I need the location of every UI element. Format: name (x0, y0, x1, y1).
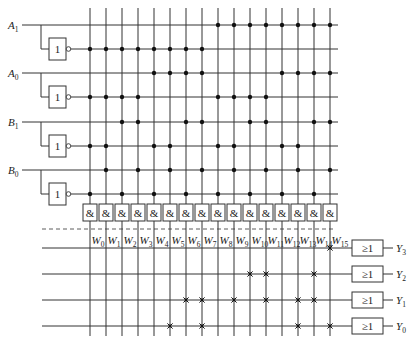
connection-dot (216, 95, 220, 99)
connection-dot (136, 120, 140, 124)
inversion-bubble-icon (66, 192, 71, 197)
output-label-y1: Y1 (396, 294, 406, 309)
connection-dot (168, 71, 172, 75)
svg-text:&: & (326, 207, 335, 219)
connection-dot (216, 144, 220, 148)
connection-dot (248, 120, 252, 124)
branch-wire (41, 122, 49, 146)
connection-dot (200, 120, 204, 124)
connection-dot (104, 168, 108, 172)
input-b1: B11 (8, 116, 338, 157)
svg-text:&: & (102, 207, 111, 219)
and-gate-w10: & (243, 204, 257, 221)
connection-dot (104, 47, 108, 51)
and-gate-w1: & (99, 204, 113, 221)
connection-dot (104, 95, 108, 99)
connection-dot (152, 71, 156, 75)
connection-dot (200, 47, 204, 51)
connection-dot (264, 23, 268, 27)
connection-dot (216, 192, 220, 196)
input-label-b0: B0 (8, 164, 19, 179)
svg-text:&: & (262, 207, 271, 219)
minterm-label-w3: W3 (140, 234, 153, 249)
connection-dot (88, 144, 92, 148)
connection-dot (168, 144, 172, 148)
input-label-a1: A1 (7, 19, 19, 34)
svg-text:&: & (150, 207, 159, 219)
connection-dot (232, 95, 236, 99)
connection-dot (280, 71, 284, 75)
or-array-outputs: ≥1Y3≥1Y2≥1Y1≥1Y0 (42, 240, 406, 335)
connection-dot (280, 23, 284, 27)
output-y1: ≥1Y1 (42, 292, 406, 309)
connection-dot (312, 192, 316, 196)
connection-dot (264, 95, 268, 99)
minterm-columns (90, 8, 330, 336)
connection-dot (88, 47, 92, 51)
minterm-label-w2: W2 (124, 234, 137, 249)
connection-dot (136, 168, 140, 172)
connection-dot (120, 192, 124, 196)
and-gate-w5: & (163, 204, 177, 221)
connection-dot (248, 192, 252, 196)
output-y0: ≥1Y0 (42, 318, 406, 335)
connection-dot (232, 168, 236, 172)
minterm-label-w9: W9 (236, 234, 249, 249)
connection-dot (280, 144, 284, 148)
and-gate-w0: & (83, 204, 97, 221)
connection-dot (120, 95, 124, 99)
and-gate-w2: & (115, 204, 129, 221)
and-gate-w12: & (275, 204, 289, 221)
branch-wire (41, 73, 49, 97)
connection-dot (328, 71, 332, 75)
connection-dot (88, 95, 92, 99)
input-b0: B01 (8, 164, 338, 205)
svg-text:&: & (230, 207, 239, 219)
input-a1: A11 (7, 19, 338, 60)
and-gate-w4: & (147, 204, 161, 221)
and-gate-w3: & (131, 204, 145, 221)
connection-dot (216, 23, 220, 27)
svg-text:&: & (86, 207, 95, 219)
connection-dot (184, 192, 188, 196)
svg-text:&: & (310, 207, 319, 219)
connection-dot (296, 71, 300, 75)
svg-text:&: & (118, 207, 127, 219)
connection-dot (184, 71, 188, 75)
minterm-label-w8: W8 (220, 234, 233, 249)
inversion-bubble-icon (66, 47, 71, 52)
or-gate-label: ≥1 (362, 242, 374, 254)
and-gate-w9: & (227, 204, 241, 221)
connection-dot (168, 47, 172, 51)
minterm-label-w7: W7 (204, 234, 217, 249)
and-gate-w15: & (323, 204, 337, 221)
minterm-label-w1: W1 (108, 234, 121, 249)
connection-dot (200, 71, 204, 75)
svg-text:&: & (198, 207, 207, 219)
connection-dot (296, 144, 300, 148)
connection-dot (232, 23, 236, 27)
svg-text:&: & (246, 207, 255, 219)
svg-text:&: & (166, 207, 175, 219)
connection-dot (184, 47, 188, 51)
connection-dot (264, 168, 268, 172)
connection-dot (88, 192, 92, 196)
connection-dot (248, 95, 252, 99)
inverter-label: 1 (55, 91, 61, 103)
input-section: A11A01B11B01 (7, 19, 338, 205)
and-gate-w7: & (195, 204, 209, 221)
branch-wire (41, 25, 49, 49)
connection-dot (312, 71, 316, 75)
svg-text:&: & (182, 207, 191, 219)
connection-dot (328, 23, 332, 27)
output-label-y3: Y3 (396, 242, 406, 257)
and-gate-w8: & (211, 204, 225, 221)
and-gate-w11: & (259, 204, 273, 221)
connection-dot (136, 95, 140, 99)
inverter-label: 1 (55, 43, 61, 55)
or-gate-label: ≥1 (362, 320, 374, 332)
minterm-label-w4: W4 (156, 234, 169, 249)
pla-multiplier-diagram: A11A01B11B01 &&&&&&&&&&&&&&&& W0W1W2W3W4… (0, 0, 409, 350)
input-a0: A01 (7, 67, 338, 108)
connection-dot (296, 168, 300, 172)
